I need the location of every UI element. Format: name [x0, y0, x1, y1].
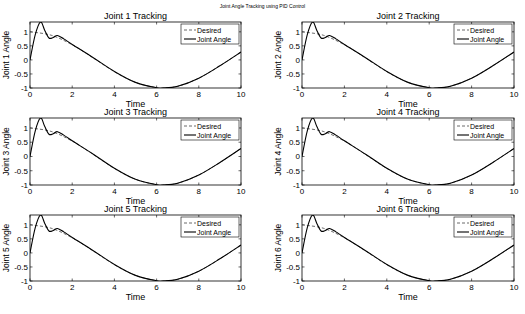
legend: DesiredJoint Angle — [454, 24, 512, 44]
x-tick-label: 8 — [469, 283, 474, 292]
x-tick-label: 6 — [154, 187, 159, 196]
x-tick-label: 0 — [300, 283, 305, 292]
x-tick-label: 4 — [385, 90, 390, 99]
y-tick-label: -1 — [21, 84, 29, 93]
x-tick-label: 2 — [70, 283, 75, 292]
y-tick-label: 0 — [296, 249, 301, 258]
subplot-title: Joint 1 Tracking — [104, 11, 167, 21]
x-axis-label: Time — [398, 292, 418, 302]
legend-entry: Joint Angle — [470, 36, 504, 44]
y-tick-label: 1 — [24, 124, 29, 133]
subplot-title: Joint 5 Tracking — [104, 204, 167, 214]
y-tick-label: 0 — [296, 152, 301, 161]
y-axis-label: Joint 1 Angle — [1, 30, 11, 79]
y-axis-label: Joint 3 Angle — [1, 127, 11, 176]
legend-entry: Joint Angle — [197, 229, 231, 237]
y-tick-label: 0.5 — [17, 235, 29, 244]
y-tick-label: 1 — [24, 221, 29, 230]
subplot-joint-1: 0246810-1-0.500.51Joint 1 TrackingTimeJo… — [1, 11, 246, 109]
subplot-joint-6: 0246810-1-0.500.51Joint 6 TrackingTimeJo… — [273, 204, 519, 302]
y-tick-label: 1 — [296, 124, 301, 133]
x-tick-label: 0 — [28, 187, 33, 196]
y-tick-label: 0 — [24, 249, 29, 258]
legend-entry: Joint Angle — [197, 132, 231, 140]
y-tick-label: -0.5 — [286, 263, 300, 272]
x-tick-label: 8 — [197, 187, 202, 196]
x-tick-label: 2 — [70, 187, 75, 196]
y-tick-label: -1 — [293, 181, 301, 190]
y-tick-label: -0.5 — [286, 167, 300, 176]
y-tick-label: 0 — [296, 56, 301, 65]
y-tick-label: 0.5 — [289, 42, 301, 51]
y-tick-label: 0 — [24, 56, 29, 65]
subplot-title: Joint 4 Tracking — [376, 107, 439, 117]
x-tick-label: 0 — [28, 90, 33, 99]
x-tick-label: 6 — [154, 90, 159, 99]
y-axis-label: Joint 5 Angle — [1, 223, 11, 272]
x-tick-label: 6 — [427, 283, 432, 292]
x-tick-label: 10 — [237, 90, 246, 99]
x-tick-label: 0 — [28, 283, 33, 292]
x-tick-label: 8 — [197, 283, 202, 292]
y-tick-label: -0.5 — [286, 70, 300, 79]
subplot-title: Joint 6 Tracking — [376, 204, 439, 214]
y-tick-label: -1 — [21, 181, 29, 190]
legend-entry: Joint Angle — [470, 132, 504, 140]
x-tick-label: 10 — [510, 90, 519, 99]
y-axis-label: Joint 4 Angle — [273, 127, 283, 176]
x-tick-label: 6 — [427, 90, 432, 99]
legend: DesiredJoint Angle — [454, 217, 512, 237]
legend-entry: Desired — [197, 27, 221, 34]
y-tick-label: -1 — [293, 277, 301, 286]
y-tick-label: 1 — [296, 28, 301, 37]
x-tick-label: 6 — [154, 283, 159, 292]
y-tick-label: -0.5 — [14, 70, 28, 79]
legend: DesiredJoint Angle — [454, 120, 512, 140]
x-axis-label: Time — [126, 292, 146, 302]
y-axis-label: Joint 2 Angle — [273, 30, 283, 79]
x-tick-label: 4 — [112, 187, 117, 196]
y-tick-label: -1 — [293, 84, 301, 93]
legend-entry: Joint Angle — [470, 229, 504, 237]
x-tick-label: 2 — [342, 283, 347, 292]
x-tick-label: 0 — [300, 187, 305, 196]
y-tick-label: 1 — [24, 28, 29, 37]
subplot-title: Joint 3 Tracking — [104, 107, 167, 117]
subplot-joint-3: 0246810-1-0.500.51Joint 3 TrackingTimeJo… — [1, 107, 246, 206]
x-tick-label: 10 — [237, 283, 246, 292]
x-tick-label: 10 — [510, 187, 519, 196]
legend-entry: Desired — [197, 220, 221, 227]
subplot-joint-5: 0246810-1-0.500.51Joint 5 TrackingTimeJo… — [1, 204, 246, 302]
x-tick-label: 2 — [342, 90, 347, 99]
legend-entry: Desired — [470, 123, 494, 130]
legend: DesiredJoint Angle — [181, 24, 239, 44]
legend: DesiredJoint Angle — [181, 217, 239, 237]
x-tick-label: 8 — [197, 90, 202, 99]
x-tick-label: 4 — [112, 283, 117, 292]
legend: DesiredJoint Angle — [181, 120, 239, 140]
x-tick-label: 10 — [237, 187, 246, 196]
x-tick-label: 6 — [427, 187, 432, 196]
x-tick-label: 10 — [510, 283, 519, 292]
figure-canvas: 0246810-1-0.500.51Joint 1 TrackingTimeJo… — [0, 0, 525, 314]
y-tick-label: 0.5 — [17, 138, 29, 147]
subplot-title: Joint 2 Tracking — [376, 11, 439, 21]
x-tick-label: 8 — [469, 187, 474, 196]
x-tick-label: 0 — [300, 90, 305, 99]
x-tick-label: 2 — [70, 90, 75, 99]
x-tick-label: 4 — [385, 283, 390, 292]
y-tick-label: -0.5 — [14, 167, 28, 176]
subplot-joint-4: 0246810-1-0.500.51Joint 4 TrackingTimeJo… — [273, 107, 519, 206]
y-tick-label: 1 — [296, 221, 301, 230]
x-tick-label: 4 — [112, 90, 117, 99]
y-tick-label: 0.5 — [289, 235, 301, 244]
y-tick-label: 0.5 — [289, 138, 301, 147]
y-axis-label: Joint 6 Angle — [273, 223, 283, 272]
legend-entry: Joint Angle — [197, 36, 231, 44]
legend-entry: Desired — [197, 123, 221, 130]
x-tick-label: 2 — [342, 187, 347, 196]
y-tick-label: -1 — [21, 277, 29, 286]
legend-entry: Desired — [470, 27, 494, 34]
subplot-joint-2: 0246810-1-0.500.51Joint 2 TrackingTimeJo… — [273, 11, 519, 109]
x-tick-label: 8 — [469, 90, 474, 99]
